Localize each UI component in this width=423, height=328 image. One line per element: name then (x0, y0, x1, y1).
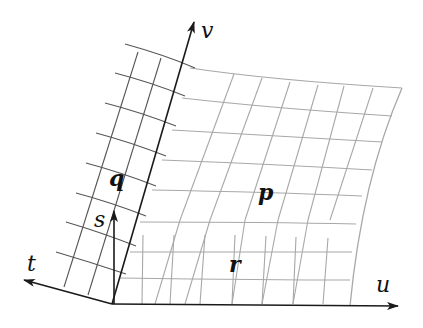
t-axis-label: t (27, 251, 36, 276)
region-label-p: p (258, 179, 274, 205)
u-axis (112, 304, 398, 306)
t-axis (24, 280, 112, 304)
coordinate-grid-diagram: u v s t p q r (0, 0, 423, 328)
u-axis-label: u (376, 272, 390, 297)
axes (24, 22, 398, 306)
v-axis-label: v (201, 18, 214, 43)
v-axis (112, 22, 194, 304)
region-label-r: r (229, 251, 242, 277)
region-label-q: q (109, 165, 124, 191)
s-axis-label: s (94, 207, 105, 232)
